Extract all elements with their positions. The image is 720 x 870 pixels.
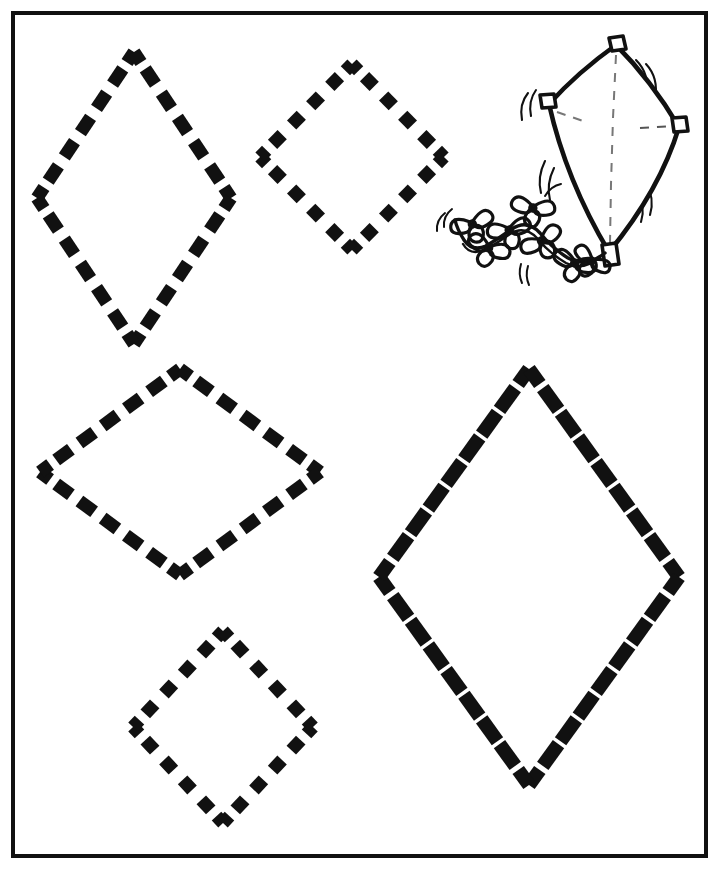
rhombus-dash	[64, 142, 74, 157]
rhombus-vertex-dash	[170, 568, 180, 575]
rhombus-dash	[126, 535, 141, 546]
rhombus-dash	[80, 117, 90, 132]
rhombus-dash	[164, 760, 173, 770]
rhombus-vertex-dash	[310, 472, 320, 479]
rhombus-vertex-dash	[223, 631, 229, 638]
rhombus-vertex-dash	[260, 150, 267, 157]
rhombus-vertex-dash	[134, 52, 141, 63]
kite-tab-left	[540, 94, 556, 108]
rhombus-dash	[48, 166, 58, 181]
rhombus-dash	[97, 93, 107, 108]
rhombus-dash	[292, 115, 302, 125]
rhombus-dash	[384, 208, 394, 218]
rhombus-vertex-dash	[345, 243, 352, 250]
rhombus-dash	[183, 780, 192, 790]
rhombus-vertex-dash	[37, 187, 44, 198]
rhombus-dash	[161, 288, 171, 303]
rhombus-dash	[64, 239, 74, 254]
rhombus-dash	[196, 552, 211, 563]
rhombus-vertex-dash	[133, 720, 139, 727]
rhombus-dash	[365, 77, 375, 87]
worksheet-page	[0, 0, 720, 870]
rhombus-dash	[292, 189, 302, 199]
rhombus-dash	[145, 704, 154, 714]
rhombus-dash	[289, 449, 304, 460]
rhombus-dash	[330, 77, 340, 87]
rhombus-dash	[403, 115, 413, 125]
rhombus-dash	[291, 740, 300, 750]
rhombus-dash	[384, 96, 394, 106]
rhombus-dash	[145, 69, 155, 84]
rhombus-dash	[177, 263, 187, 278]
rhombus-dash	[103, 415, 118, 426]
rhombus-dash	[201, 800, 210, 810]
rhombus-vertex-dash	[668, 577, 679, 592]
rhombus-dash	[422, 170, 432, 180]
rhombus-dash	[365, 228, 375, 238]
rhombus-dash	[311, 208, 321, 218]
rhombus-dash	[266, 432, 281, 443]
rhombus-dash	[330, 228, 340, 238]
rhombus-dash	[235, 644, 244, 654]
rhombus-vertex-dash	[40, 465, 50, 472]
rhombus-dash	[97, 288, 107, 303]
rhombus-dash	[235, 800, 244, 810]
rhombus-dash	[56, 449, 71, 460]
rhombus-dash	[79, 432, 94, 443]
rhombus-dash	[291, 704, 300, 714]
rhombus-vertex-dash	[437, 157, 444, 164]
rhombus-vertex-dash	[217, 816, 223, 823]
rhombus-dash	[266, 501, 281, 512]
rhombus-dash	[113, 69, 123, 84]
rhombus-dash	[210, 215, 220, 230]
rhombus-dash	[403, 189, 413, 199]
rhombus-dash	[149, 381, 164, 392]
rhombus-dash	[243, 518, 258, 529]
rhombus-dash	[48, 215, 58, 230]
rhombus-vertex-dash	[307, 727, 313, 734]
rhombus-dash	[210, 166, 220, 181]
rhombus-vertex-dash	[127, 333, 134, 344]
rhombus-dash	[56, 484, 71, 495]
rhombus-dash	[194, 239, 204, 254]
rhombus-dash	[422, 135, 432, 145]
rhombus-dash	[161, 93, 171, 108]
rhombus-dash	[194, 142, 204, 157]
rhombus-dash	[164, 684, 173, 694]
rhombus-dash	[145, 740, 154, 750]
rhombus-dash	[149, 552, 164, 563]
worksheet-drawing-canvas	[0, 0, 720, 870]
rhombus-dash	[196, 381, 211, 392]
rhombus-dash	[177, 117, 187, 132]
rhombus-dash	[145, 312, 155, 327]
rhombus-vertex-dash	[518, 770, 529, 785]
rhombus-dash	[311, 96, 321, 106]
kite-tab-top	[609, 36, 626, 51]
rhombus-dash	[103, 518, 118, 529]
rhombus-vertex-dash	[224, 198, 231, 209]
rhombus-vertex-dash	[529, 369, 540, 384]
kite-tab-right	[672, 117, 688, 132]
rhombus-vertex-dash	[379, 562, 390, 577]
rhombus-dash	[219, 535, 234, 546]
rhombus-dash	[273, 135, 283, 145]
rhombus-dash	[183, 664, 192, 674]
rhombus-dash	[273, 760, 282, 770]
rhombus-dash	[80, 263, 90, 278]
rhombus-dash	[243, 415, 258, 426]
rhombus-dash	[273, 684, 282, 694]
rhombus-dash	[113, 312, 123, 327]
rhombus-dash	[79, 501, 94, 512]
rhombus-dash	[273, 170, 283, 180]
rhombus-dash	[289, 484, 304, 495]
rhombus-dash	[254, 780, 263, 790]
rhombus-dash	[254, 664, 263, 674]
rhombus-dash	[219, 398, 234, 409]
rhombus-vertex-dash	[180, 369, 190, 376]
rhombus-dash	[126, 398, 141, 409]
rhombus-dash	[201, 644, 210, 654]
rhombus-vertex-dash	[352, 64, 359, 71]
